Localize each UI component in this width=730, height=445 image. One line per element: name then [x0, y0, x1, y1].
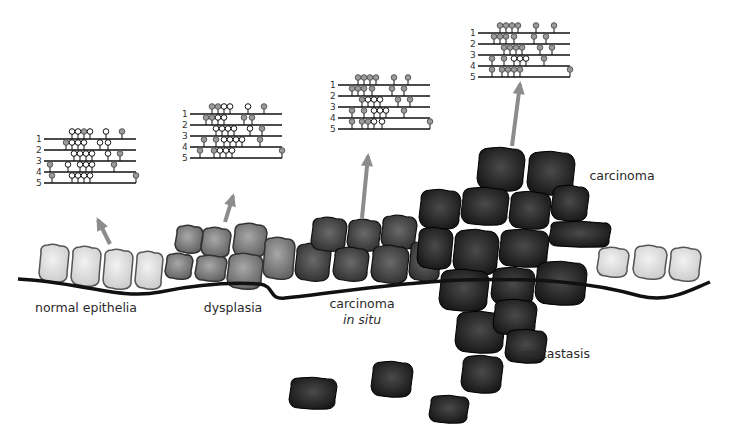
- methylated-cpg-icon: [511, 34, 517, 40]
- methylated-cpg-icon: [355, 86, 361, 92]
- row-number: 2: [182, 120, 188, 130]
- normal-cell: [633, 245, 667, 279]
- methylated-cpg-icon: [389, 86, 395, 92]
- methylated-cpg-icon: [355, 75, 361, 81]
- carcinoma-cell: [551, 185, 589, 221]
- unmethylated-cpg-icon: [371, 108, 377, 114]
- unmethylated-cpg-icon: [511, 56, 517, 62]
- row-number: 5: [36, 178, 42, 188]
- unmethylated-cpg-icon: [377, 108, 383, 114]
- diagram-canvas: 12345123451234512345: [0, 0, 730, 445]
- unmethylated-cpg-icon: [81, 173, 87, 179]
- methylated-cpg-icon: [215, 104, 221, 110]
- methylated-cpg-icon: [505, 67, 511, 73]
- metastasis-cell: [289, 377, 337, 409]
- unmethylated-cpg-icon: [219, 126, 225, 132]
- unmethylated-cpg-icon: [239, 137, 245, 143]
- unmethylated-cpg-icon: [105, 140, 111, 146]
- methylated-cpg-icon: [359, 119, 365, 125]
- row-number: 4: [182, 142, 188, 152]
- methylated-cpg-icon: [197, 148, 203, 154]
- unmethylated-cpg-icon: [105, 151, 111, 157]
- normal-cell: [103, 249, 133, 289]
- methylated-cpg-icon: [361, 108, 367, 114]
- methylation-panel-0: 12345: [36, 129, 139, 188]
- cell-layer: [39, 147, 701, 423]
- methylated-cpg-icon: [395, 97, 401, 103]
- row-number: 5: [470, 72, 476, 82]
- unmethylated-cpg-icon: [221, 104, 227, 110]
- label-carcinoma: carcinoma: [582, 168, 662, 183]
- methylated-cpg-icon: [401, 86, 407, 92]
- arrow-head-icon: [224, 193, 235, 207]
- unmethylated-cpg-icon: [69, 173, 75, 179]
- methylation-panel-1: 12345: [182, 104, 285, 163]
- unmethylated-cpg-icon: [225, 126, 231, 132]
- row-number: 1: [470, 28, 476, 38]
- normal-cell: [597, 247, 629, 277]
- dysplasia-cell: [233, 223, 267, 257]
- methylated-cpg-icon: [491, 34, 497, 40]
- methylated-cpg-icon: [81, 129, 87, 135]
- unmethylated-cpg-icon: [75, 140, 81, 146]
- unmethylated-cpg-icon: [217, 148, 223, 154]
- carcinoma-cell: [453, 229, 499, 275]
- methylated-cpg-icon: [119, 129, 125, 135]
- row-number: 2: [330, 91, 336, 101]
- methylated-cpg-icon: [249, 115, 255, 121]
- normal-cell: [71, 246, 101, 286]
- methylated-cpg-icon: [489, 67, 495, 73]
- carcinoma-cell: [419, 189, 461, 229]
- label-metastasis: metastasis: [516, 346, 596, 361]
- cis-cell: [311, 217, 347, 251]
- methylated-cpg-icon: [543, 34, 549, 40]
- methylated-cpg-icon: [549, 45, 555, 51]
- unmethylated-cpg-icon: [69, 140, 75, 146]
- methylated-cpg-icon: [511, 67, 517, 73]
- label-dysplasia: dysplasia: [188, 300, 278, 315]
- unmethylated-cpg-icon: [383, 108, 389, 114]
- unmethylated-cpg-icon: [221, 137, 227, 143]
- dysplasia-cell: [175, 225, 203, 253]
- row-number: 1: [330, 80, 336, 90]
- methylated-cpg-icon: [349, 108, 355, 114]
- cis-cell: [347, 219, 381, 251]
- arrow-head-icon: [361, 153, 373, 167]
- methylated-cpg-icon: [401, 108, 407, 114]
- methylated-cpg-icon: [407, 97, 413, 103]
- metastasis-cell: [371, 361, 413, 397]
- methylated-cpg-icon: [241, 115, 247, 121]
- methylated-cpg-icon: [513, 45, 519, 51]
- unmethylated-cpg-icon: [371, 119, 377, 125]
- methylated-cpg-icon: [369, 86, 375, 92]
- metastasis-cell: [461, 355, 503, 393]
- methylated-cpg-icon: [499, 67, 505, 73]
- row-number: 5: [330, 124, 336, 134]
- row-number: 4: [470, 61, 476, 71]
- methylated-cpg-icon: [361, 75, 367, 81]
- unmethylated-cpg-icon: [229, 148, 235, 154]
- unmethylated-cpg-icon: [231, 126, 237, 132]
- methylated-cpg-icon: [211, 148, 217, 154]
- methylated-cpg-icon: [279, 148, 285, 154]
- methylation-panel-2: 12345: [330, 75, 433, 134]
- cis-cell: [333, 247, 369, 281]
- dysplasia-cell: [201, 227, 231, 257]
- methylated-cpg-icon: [517, 67, 523, 73]
- dysplasia-cell: [165, 253, 193, 279]
- unmethylated-cpg-icon: [83, 162, 89, 168]
- unmethylated-cpg-icon: [371, 97, 377, 103]
- row-number: 4: [330, 113, 336, 123]
- unmethylated-cpg-icon: [245, 104, 251, 110]
- row-number: 2: [470, 39, 476, 49]
- methylated-cpg-icon: [349, 86, 355, 92]
- row-number: 3: [330, 102, 336, 112]
- unmethylated-cpg-icon: [233, 137, 239, 143]
- unmethylated-cpg-icon: [523, 56, 529, 62]
- methylated-cpg-icon: [373, 75, 379, 81]
- methylated-cpg-icon: [361, 86, 367, 92]
- unmethylated-cpg-icon: [77, 162, 83, 168]
- unmethylated-cpg-icon: [65, 162, 71, 168]
- carcinoma-cell: [417, 227, 453, 269]
- unmethylated-cpg-icon: [517, 56, 523, 62]
